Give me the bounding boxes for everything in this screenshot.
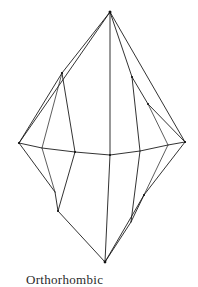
vertex-upper-left-shoulder bbox=[61, 72, 63, 74]
vertex-apex-top bbox=[109, 11, 112, 14]
vertex-girdle-right bbox=[184, 141, 186, 143]
vertex-apex-bottom bbox=[104, 261, 107, 264]
vertex-girdle-mid-left bbox=[74, 151, 76, 153]
vertex-girdle-center bbox=[109, 154, 111, 156]
vertex-upper-right-shoulder bbox=[131, 76, 133, 78]
crystal-figure: Orthorhombic bbox=[0, 0, 198, 287]
crystal-drawing bbox=[0, 0, 198, 287]
vertex-girdle-left bbox=[18, 142, 20, 144]
vertex-right-upper-bevel bbox=[147, 103, 149, 105]
vertex-lower-left-foot bbox=[57, 210, 59, 212]
figure-background bbox=[0, 0, 198, 287]
figure-caption: Orthorhombic bbox=[0, 272, 198, 287]
vertex-lower-right-knee bbox=[143, 194, 145, 196]
